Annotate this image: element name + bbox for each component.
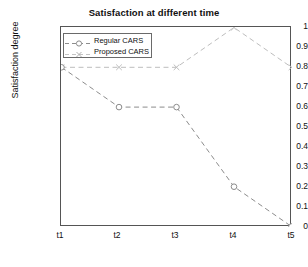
legend: Regular CARS Proposed CARS	[63, 33, 152, 58]
legend-entry-proposed-cars: Proposed CARS	[64, 46, 151, 57]
x-tick-label-t5: t5	[271, 230, 308, 240]
chart-figure: Satisfaction at different time Satisfact…	[0, 0, 308, 267]
chart-title: Satisfaction at different time	[0, 7, 308, 18]
y-axis-title-wrapper: Satisfaction degree	[10, 0, 24, 140]
legend-label-regular-cars: Regular CARS	[94, 35, 143, 46]
circle-marker-icon	[64, 35, 94, 46]
x-tick-label-t1: t1	[40, 230, 80, 240]
legend-entry-regular-cars: Regular CARS	[64, 35, 151, 46]
x-tick-label-t2: t2	[97, 230, 137, 240]
y-axis-title: Satisfaction degree	[10, 0, 20, 140]
x-marker-icon	[64, 46, 94, 57]
x-tick-label-t4: t4	[213, 230, 253, 240]
series-regular-cars	[61, 65, 292, 228]
x-tick-label-t3: t3	[155, 230, 195, 240]
legend-label-proposed-cars: Proposed CARS	[94, 46, 149, 57]
